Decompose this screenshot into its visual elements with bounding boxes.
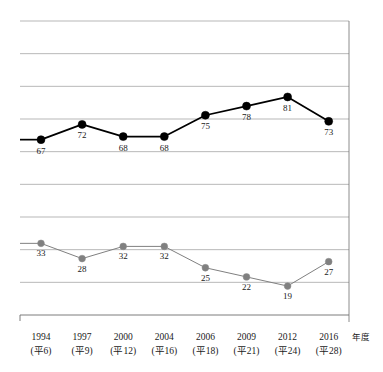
x-axis-label: 2016(平28) xyxy=(307,330,351,358)
data-point-marker xyxy=(119,133,127,141)
data-point-value-label: 81 xyxy=(275,103,301,113)
x-axis-label-year: 1997 xyxy=(60,330,104,344)
x-axis-label-year: 2000 xyxy=(101,330,145,344)
data-point-marker xyxy=(161,243,168,250)
gridline-group xyxy=(20,21,349,282)
data-point-value-label: 75 xyxy=(192,121,218,131)
data-point-marker xyxy=(38,240,45,247)
data-point-value-label: 32 xyxy=(110,251,136,261)
data-point-marker xyxy=(243,274,250,281)
chart-frame xyxy=(20,21,349,322)
x-axis-label-era: (平24) xyxy=(266,344,310,358)
data-point-value-label: 19 xyxy=(275,291,301,301)
data-point-value-label: 78 xyxy=(234,112,260,122)
x-axis-label-year: 2004 xyxy=(142,330,186,344)
data-point-marker xyxy=(79,255,86,262)
data-point-value-label: 33 xyxy=(28,248,54,258)
x-axis-label: 2009(平21) xyxy=(225,330,269,358)
x-axis-label-era: (平9) xyxy=(60,344,104,358)
x-axis-label-year: 2009 xyxy=(225,330,269,344)
data-point-marker xyxy=(37,136,45,144)
data-point-marker xyxy=(160,133,168,141)
data-point-value-label: 32 xyxy=(151,251,177,261)
data-point-marker xyxy=(202,264,209,271)
data-point-value-label: 68 xyxy=(110,143,136,153)
x-axis-label: 1994(平6) xyxy=(19,330,63,358)
data-point-marker xyxy=(78,120,86,128)
data-point-marker xyxy=(243,102,251,110)
x-axis-label: 2004(平16) xyxy=(142,330,186,358)
data-point-value-label: 67 xyxy=(28,146,54,156)
data-point-marker xyxy=(284,283,291,290)
x-axis-label-era: (平21) xyxy=(225,344,269,358)
data-point-value-label: 25 xyxy=(192,273,218,283)
x-axis-label: 2000(平12) xyxy=(101,330,145,358)
x-axis-unit-label: 年度 xyxy=(352,330,370,342)
x-axis-label-era: (平16) xyxy=(142,344,186,358)
data-point-marker xyxy=(201,111,209,119)
data-point-value-label: 27 xyxy=(316,267,342,277)
chart-container: 67726868757881733328323225221927 1994(平6… xyxy=(0,0,383,372)
chart-plot-area xyxy=(0,0,383,372)
data-point-marker xyxy=(120,243,127,250)
data-point-value-label: 22 xyxy=(234,282,260,292)
data-point-marker xyxy=(325,258,332,265)
x-axis-label: 1997(平9) xyxy=(60,330,104,358)
data-point-value-label: 72 xyxy=(69,130,95,140)
x-axis-label-era: (平28) xyxy=(307,344,351,358)
data-point-value-label: 68 xyxy=(151,143,177,153)
x-axis-label: 2006(平18) xyxy=(183,330,227,358)
x-axis-label-era: (平12) xyxy=(101,344,145,358)
data-point-value-label: 73 xyxy=(316,127,342,137)
x-axis-label-year: 2016 xyxy=(307,330,351,344)
x-axis-label-era: (平18) xyxy=(183,344,227,358)
data-point-marker xyxy=(325,117,333,125)
x-axis-label-year: 2006 xyxy=(183,330,227,344)
x-axis-label-era: (平6) xyxy=(19,344,63,358)
data-point-marker xyxy=(284,93,292,101)
x-axis-label: 2012(平24) xyxy=(266,330,310,358)
x-axis-label-year: 1994 xyxy=(19,330,63,344)
data-point-value-label: 28 xyxy=(69,264,95,274)
x-axis-label-year: 2012 xyxy=(266,330,310,344)
series-line-upper xyxy=(20,93,333,144)
